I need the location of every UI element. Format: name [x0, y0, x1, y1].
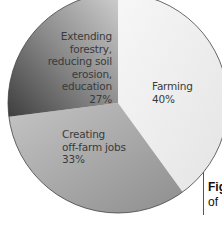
- label-offfarm-line1: Creating: [62, 128, 126, 141]
- label-forestry-line4: erosion, education: [22, 68, 112, 93]
- caption-rule: [203, 172, 204, 215]
- label-forestry-line1: Extending: [22, 30, 112, 43]
- label-forestry-pct: 27%: [22, 93, 112, 106]
- label-farming-name: Farming: [152, 80, 193, 93]
- caption-fig: Fig: [208, 180, 222, 195]
- label-forestry-line3: reducing soil: [22, 55, 112, 68]
- label-farming: Farming 40%: [152, 80, 193, 105]
- label-offfarm-line2: off-farm jobs: [62, 141, 126, 154]
- label-offfarm: Creating off-farm jobs 33%: [62, 128, 126, 166]
- figure-caption: Fig of: [208, 180, 222, 210]
- label-farming-pct: 40%: [152, 93, 193, 106]
- caption-of: of: [208, 195, 222, 210]
- label-forestry-line2: forestry,: [22, 43, 112, 56]
- label-offfarm-pct: 33%: [62, 153, 126, 166]
- label-forestry: Extending forestry, reducing soil erosio…: [22, 30, 112, 105]
